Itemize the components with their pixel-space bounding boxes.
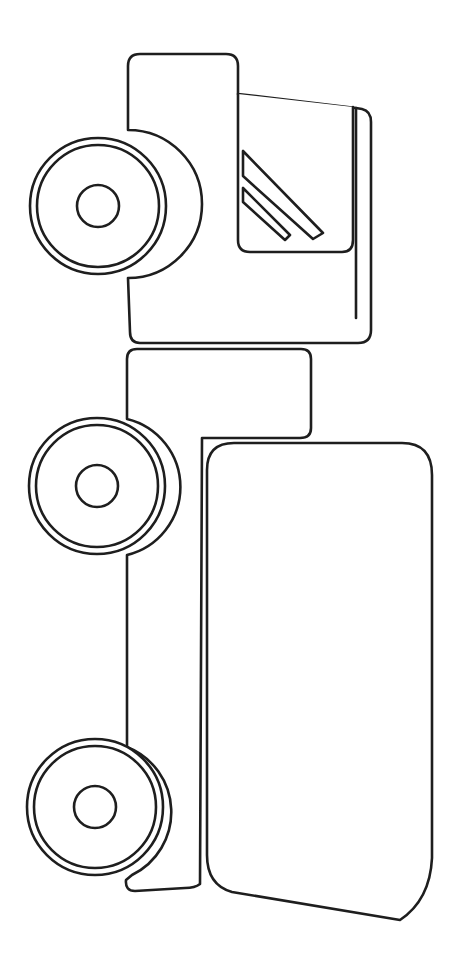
rear-wheel <box>27 739 163 875</box>
middle-wheel <box>29 418 165 554</box>
cargo-box <box>207 443 432 920</box>
coloring-page: Truck coloring page <box>0 0 461 959</box>
truck-drawing <box>0 0 461 959</box>
front-wheel <box>30 138 166 274</box>
